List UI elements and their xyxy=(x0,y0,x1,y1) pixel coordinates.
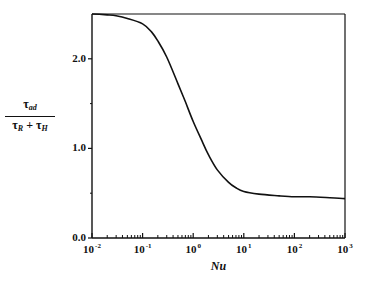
subscript-r: R xyxy=(18,124,23,133)
x-tick-label: 103 xyxy=(325,242,365,255)
x-tick-label: 102 xyxy=(274,242,314,255)
y-tick-label: 1.0 xyxy=(56,141,86,153)
data-curve xyxy=(92,14,345,199)
x-tick-label: 101 xyxy=(224,242,264,255)
subscript-ad: ad xyxy=(29,103,37,112)
y-axis-label: τad τR + τH xyxy=(2,97,58,136)
x-axis-label: Nu xyxy=(92,259,345,274)
axis-ticks xyxy=(88,59,345,238)
chart-canvas xyxy=(0,0,365,283)
plot-axes xyxy=(92,14,345,238)
plus-sign: + xyxy=(26,118,33,132)
subscript-h: H xyxy=(42,124,48,133)
y-label-numerator: τad xyxy=(5,97,55,117)
x-tick-label: 10-2 xyxy=(72,242,112,255)
x-tick-label: 100 xyxy=(173,242,213,255)
x-tick-label: 10-1 xyxy=(123,242,163,255)
y-tick-label: 2.0 xyxy=(56,52,86,64)
y-label-denominator: τR + τH xyxy=(2,117,58,136)
